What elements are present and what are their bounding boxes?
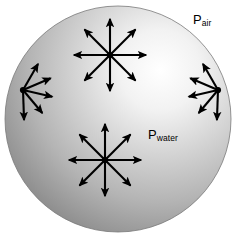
diagram-canvas [0,0,242,235]
label-p-air-base: P [193,12,202,27]
water-droplet-sphere [5,6,231,232]
label-p-water-base: P [148,127,157,142]
starburst-top-origin-dot [107,52,113,58]
fan-right-surface-origin-dot [215,87,221,93]
pressure-arrow [23,90,24,120]
label-p-water: Pwater [148,128,178,143]
label-p-air-subscript: air [202,18,212,28]
starburst-bottom-origin-dot [102,157,108,163]
fan-left-surface-origin-dot [20,87,26,93]
label-p-water-subscript: water [157,133,178,143]
pressure-arrow [217,90,218,120]
pressure-diagram-figure: Pair Pwater [0,0,242,235]
label-p-air: Pair [193,13,211,28]
